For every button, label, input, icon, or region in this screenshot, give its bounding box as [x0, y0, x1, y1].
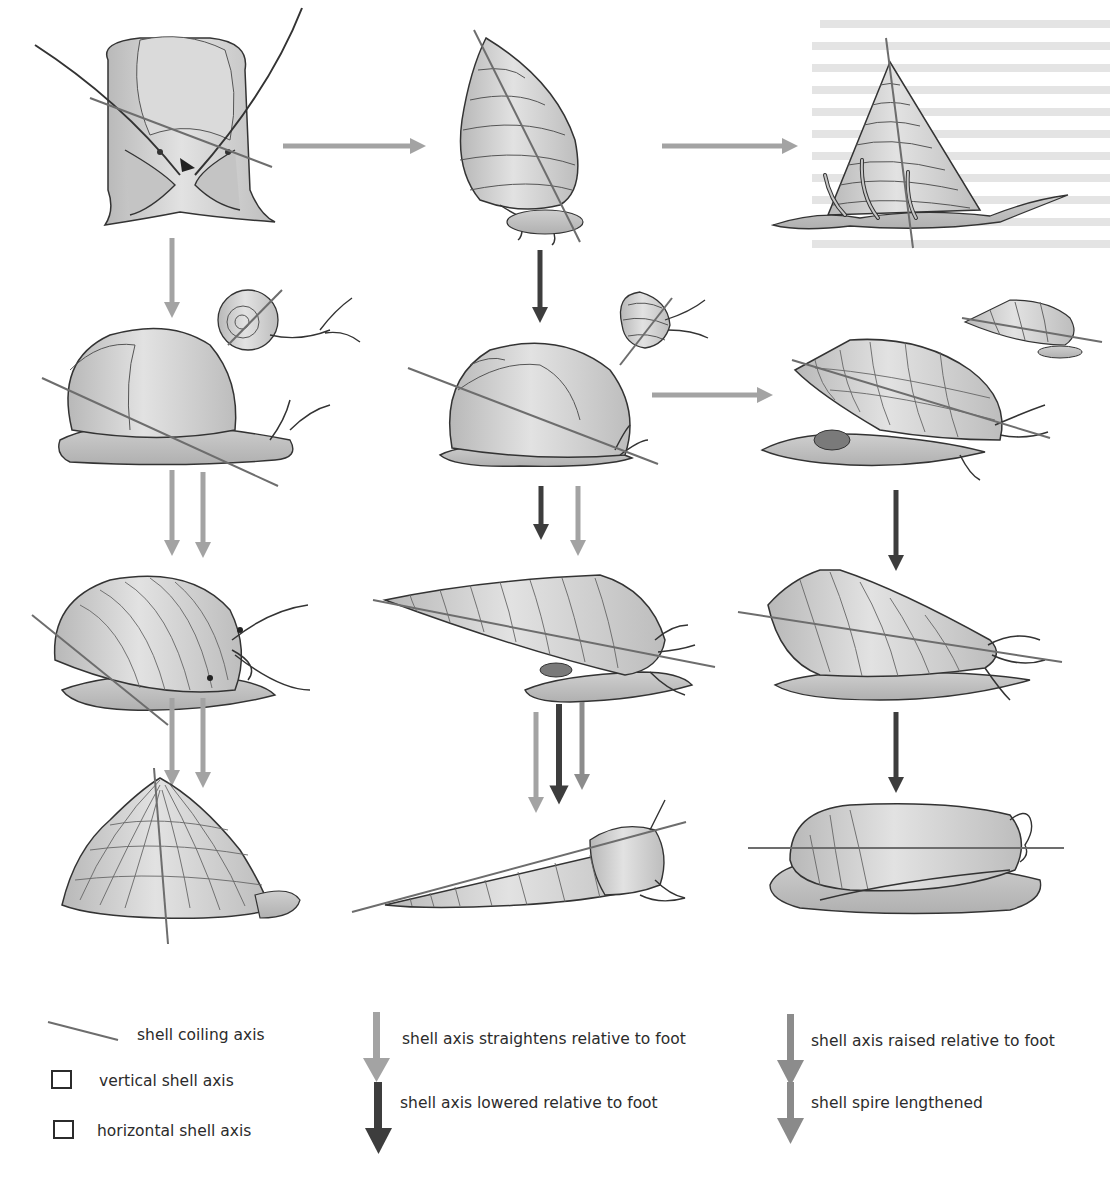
- form-r4c2-turritelliform: [352, 800, 686, 912]
- legend-label-raised: shell axis raised relative to foot: [811, 1032, 1055, 1050]
- vertical-axis-box-icon: [51, 1070, 72, 1089]
- form-r2c3-fusiform: [762, 300, 1102, 480]
- arrow-spire-lengthened-icon: [776, 1080, 806, 1146]
- horizontal-axis-box-icon: [53, 1120, 74, 1139]
- form-r1c1-limpet-front: [35, 8, 302, 225]
- form-r3c3-cone-shell: [738, 570, 1062, 700]
- arrow-lowered-icon: [364, 1080, 394, 1156]
- form-r2c2-globose-snail: [408, 292, 708, 466]
- form-r3c2-auger-elongated: [373, 575, 715, 702]
- shell-evolution-diagram: [0, 0, 1120, 990]
- form-r2c1-helicoid-snail: [42, 290, 360, 486]
- form-r4c1-limpet-cap: [62, 768, 300, 944]
- coiling-axis-line-icon: [46, 1018, 121, 1044]
- arrow-straightens-icon: [362, 1010, 392, 1084]
- arrow-raised-icon: [776, 1012, 806, 1088]
- legend-label-vertical-axis: vertical shell axis: [99, 1072, 234, 1090]
- legend-label-coiling-axis: shell coiling axis: [137, 1026, 265, 1044]
- form-r4c3-olive-involute: [748, 804, 1064, 914]
- form-r1c2-trochoid: [460, 30, 583, 245]
- legend-label-straightens: shell axis straightens relative to foot: [402, 1030, 686, 1048]
- legend-label-lowered: shell axis lowered relative to foot: [400, 1094, 658, 1112]
- legend-label-horizontal-axis: horizontal shell axis: [97, 1122, 251, 1140]
- legend-label-spire-lengthened: shell spire lengthened: [811, 1094, 983, 1112]
